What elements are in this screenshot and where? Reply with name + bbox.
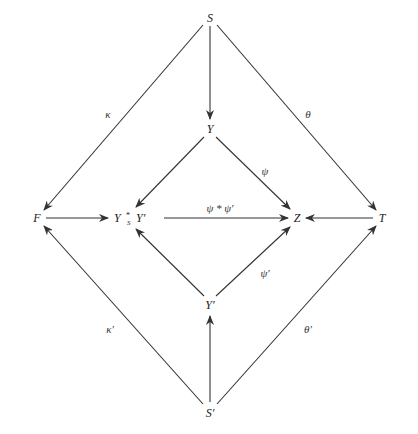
node-S: S — [207, 11, 213, 25]
edge-Sp-F — [44, 226, 203, 404]
node-F: F — [32, 211, 41, 225]
svg-text:Y: Y — [114, 211, 122, 225]
edge-Y-fiber — [136, 137, 204, 207]
label-kappa: κ — [105, 108, 111, 120]
label-psi: ψ — [262, 165, 269, 177]
label-psi-star: ψ * ψ′ — [206, 202, 234, 214]
edge-Y-Z — [216, 137, 290, 209]
node-Z: Z — [294, 211, 301, 225]
label-kappa-prime: κ′ — [106, 323, 114, 335]
label-psi-prime: ψ′ — [260, 267, 270, 279]
edge-Yp-fiber — [136, 229, 204, 296]
edge-S-T — [217, 25, 376, 210]
svg-text:Y′: Y′ — [136, 211, 146, 225]
edge-Yp-Z — [216, 227, 290, 296]
edge-Sp-T — [217, 226, 376, 404]
label-theta: θ — [305, 108, 311, 120]
label-theta-prime: θ′ — [304, 323, 312, 335]
node-T: T — [379, 211, 387, 225]
node-S-prime: S′ — [206, 406, 215, 420]
edge-S-F — [44, 25, 203, 210]
node-Y: Y — [207, 122, 215, 136]
svg-text:S: S — [127, 219, 131, 227]
commutative-diagram: S Y F Y * S Y′ Z T Y′ S′ κ θ ψ ψ * ψ′ ψ′… — [0, 0, 418, 434]
node-fiber-product: Y * S Y′ — [114, 211, 146, 227]
node-Y-prime: Y′ — [205, 298, 215, 312]
